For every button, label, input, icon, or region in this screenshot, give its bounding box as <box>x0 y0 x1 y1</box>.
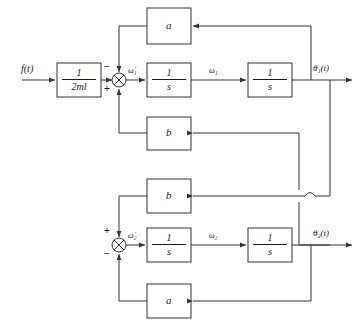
feedback-a-bottom-label: a <box>166 295 172 306</box>
int2-top-numerator: 1 <box>253 68 287 78</box>
int2-top-denominator: s <box>253 81 287 92</box>
gain-denominator: 2ml <box>62 81 96 92</box>
input-label: f(t) <box>21 64 33 74</box>
sum-2-sign-bottom: − <box>104 249 110 259</box>
integrator-1-top-label: 1 s <box>152 68 186 92</box>
gain-numerator: 1 <box>62 68 96 78</box>
int1-top-numerator: 1 <box>152 68 186 78</box>
int1-top-denominator: s <box>152 81 186 92</box>
int2-bottom-denominator: s <box>253 246 287 257</box>
sum-1-sign-bottom: + <box>104 84 110 94</box>
int1-bottom-denominator: s <box>152 246 186 257</box>
int1-top-bar <box>152 79 186 80</box>
wire-hop <box>305 193 315 197</box>
integrator-2-top-label: 1 s <box>253 68 287 92</box>
omega-2-label: ω₂ <box>209 232 217 240</box>
theta-1-output-label: θ₁(t) <box>313 64 329 73</box>
omega-dot-1-label: ω̇₁ <box>128 67 136 75</box>
sum-1-sign-top: − <box>104 62 110 72</box>
int1-bottom-numerator: 1 <box>152 233 186 243</box>
omega-1-label: ω₁ <box>209 67 217 75</box>
block-diagram-canvas: f(t) 1 2ml − + ω̇₁ 1 s ω₁ 1 s θ₁(t) a b … <box>0 0 356 328</box>
theta-2-output-label: θ₂(t) <box>313 229 329 238</box>
omega-dot-2-label: ω̇₂ <box>128 232 136 240</box>
diagram-wires <box>0 0 356 328</box>
gain-block-label: 1 2ml <box>62 68 96 92</box>
int2-bottom-numerator: 1 <box>253 233 287 243</box>
int2-bottom-bar <box>253 244 287 245</box>
int2-top-bar <box>253 79 287 80</box>
integrator-2-bottom-label: 1 s <box>253 233 287 257</box>
integrator-1-bottom-label: 1 s <box>152 233 186 257</box>
sum-2-sign-top: + <box>104 226 110 236</box>
gain-fraction-bar <box>62 79 96 80</box>
feedback-a-top-label: a <box>166 20 172 31</box>
int1-bottom-bar <box>152 244 186 245</box>
feedback-b-top-label: b <box>166 127 172 138</box>
feedback-b-bottom-label: b <box>166 190 172 201</box>
